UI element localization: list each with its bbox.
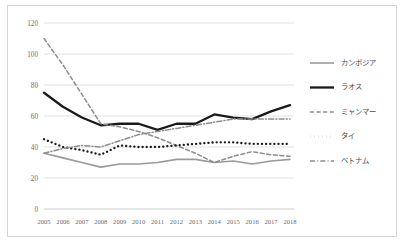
line-chart: 020406080100120 200520062007200820092010… (8, 6, 396, 236)
legend-label-4: ベトナム (341, 156, 369, 165)
x-tick-label: 2006 (56, 218, 70, 225)
series-line-1 (44, 93, 290, 130)
y-axis-tick-labels: 020406080100120 (27, 20, 38, 214)
data-series-group (44, 39, 290, 168)
y-tick-label: 20 (31, 175, 39, 183)
legend-label-2: ミャンマー (341, 107, 376, 116)
x-tick-label: 2008 (94, 218, 108, 225)
x-tick-label: 2013 (189, 218, 203, 225)
x-tick-label: 2018 (283, 218, 297, 225)
y-tick-label: 40 (31, 144, 39, 152)
gridlines (44, 23, 294, 209)
x-tick-label: 2009 (113, 218, 127, 225)
y-tick-label: 120 (27, 20, 38, 28)
x-tick-label: 2005 (37, 218, 51, 225)
chart-frame: 020406080100120 200520062007200820092010… (7, 5, 397, 237)
y-tick-label: 0 (34, 206, 38, 214)
legend-label-0: カンボジア (341, 58, 376, 67)
legend-label-3: タイ (341, 131, 355, 140)
x-tick-label: 2007 (75, 218, 89, 225)
x-tick-label: 2017 (264, 218, 278, 225)
x-tick-label: 2014 (208, 218, 222, 225)
x-tick-label: 2016 (246, 218, 260, 225)
chart-legend: カンボジアラオスミャンマータイベトナム (310, 58, 376, 165)
y-tick-label: 60 (31, 113, 39, 121)
legend-label-1: ラオス (341, 82, 362, 91)
series-line-4 (44, 119, 290, 153)
x-tick-label: 2010 (132, 218, 146, 225)
x-tick-label: 2012 (170, 218, 183, 225)
x-tick-label: 2011 (151, 218, 164, 225)
x-axis-tick-labels: 2005200620072008200920102011201220132014… (37, 218, 297, 225)
y-tick-label: 100 (27, 51, 38, 59)
series-line-0 (44, 153, 290, 167)
chart-plot-area: 020406080100120 200520062007200820092010… (8, 6, 396, 236)
y-tick-label: 80 (31, 82, 39, 90)
x-tick-label: 2015 (227, 218, 241, 225)
